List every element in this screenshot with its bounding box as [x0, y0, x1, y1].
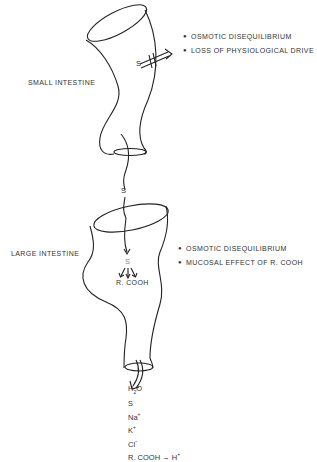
small-intestine-bottom-opening — [114, 149, 146, 156]
transit-solute: S — [121, 186, 126, 195]
large-intestine-top-opening — [91, 198, 170, 237]
small-intestine-effects: OSMOTIC DISEQUILIBRIUM LOSS OF PHYSIOLOG… — [183, 30, 314, 58]
large-intestine-label: LARGE INTESTINE — [11, 250, 79, 257]
transit-line — [121, 134, 129, 190]
small-intestine-right-wall — [140, 10, 156, 154]
output-item-water: H2O — [128, 383, 180, 398]
arrow-right-icon: → — [162, 453, 170, 462]
output-item-acid-dissociation: R. COOH → H+ — [128, 449, 180, 462]
large-intestine-effects: OSMOTIC DISEQUILIBRIUM MUCOSAL EFFECT OF… — [178, 242, 303, 270]
excretion-list: H2O S Na+ K+ Cl− R. COOH → H+ — [128, 383, 180, 462]
effect-item: LOSS OF PHYSIOLOGICAL DRIVE — [183, 44, 314, 58]
output-item-solute: S — [128, 398, 180, 409]
effect-item: OSMOTIC DISEQUILIBRIUM — [178, 242, 303, 256]
large-intestine-right-wall — [150, 206, 168, 368]
large-intestine-solute: S — [125, 257, 130, 266]
effect-item: OSMOTIC DISEQUILIBRIUM — [183, 30, 314, 44]
small-intestine-top-opening — [83, 0, 152, 48]
small-intestine-solute: S — [136, 59, 141, 68]
output-item-potassium: K+ — [128, 422, 180, 436]
small-intestine-label: SMALL INTESTINE — [28, 79, 95, 86]
small-intestine-left-wall — [86, 40, 119, 154]
effect-item: MUCOSAL EFFECT OF R. COOH — [178, 256, 303, 270]
output-item-chloride: Cl− — [128, 436, 180, 450]
r-cooh-product: R. COOH — [116, 279, 149, 286]
large-intestine-left-wall — [83, 226, 127, 368]
output-item-sodium: Na+ — [128, 409, 180, 423]
